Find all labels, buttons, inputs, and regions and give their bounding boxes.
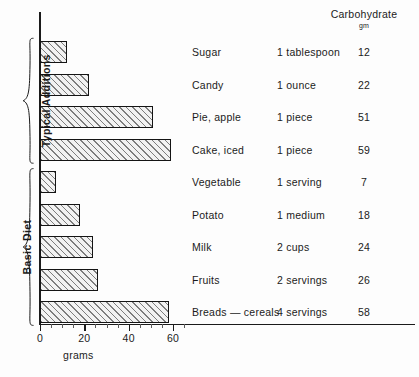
row-grams-value: 51 [358, 111, 370, 123]
row-grams-value: 7 [361, 176, 367, 188]
row-food-label: Pie, apple [192, 111, 241, 123]
x-tick-major [129, 324, 130, 331]
row-portion-label: 4 servings [277, 306, 327, 318]
x-tick-major [84, 324, 85, 331]
x-tick-minor [162, 324, 163, 328]
carbohydrate-bar-chart: 0204060 grams Sugar1 tablespoon12Candy1 … [0, 0, 419, 377]
bar [40, 171, 56, 193]
x-tick-label: 40 [123, 332, 135, 344]
x-tick-minor [184, 324, 185, 328]
row-food-label: Vegetable [192, 176, 241, 188]
row-grams-value: 24 [358, 241, 370, 253]
x-tick-major [40, 324, 41, 331]
x-tick-minor [107, 324, 108, 328]
x-tick-minor [51, 324, 52, 328]
row-grams-value: 18 [358, 209, 370, 221]
group-label-basic-diet: Basic Diet [0, 167, 22, 327]
x-axis-title: grams [63, 349, 94, 361]
row-food-label: Fruits [192, 274, 220, 286]
row-food-label: Cake, iced [192, 144, 244, 156]
x-tick-major [173, 324, 174, 331]
row-grams-value: 12 [358, 46, 370, 58]
x-tick-minor [95, 324, 96, 328]
group-label-basic-text: Basic Diet [0, 220, 107, 275]
x-tick-label: 0 [37, 332, 43, 344]
x-tick-minor [118, 324, 119, 328]
row-portion-label: 1 piece [277, 144, 313, 156]
row-portion-label: 1 piece [277, 111, 313, 123]
row-food-label: Potato [192, 209, 224, 221]
bar [40, 301, 169, 323]
row-grams-value: 59 [358, 144, 370, 156]
row-portion-label: 1 medium [277, 209, 325, 221]
row-portion-label: 1 serving [277, 176, 322, 188]
x-tick-minor [73, 324, 74, 328]
x-tick-minor [151, 324, 152, 328]
x-tick-minor [140, 324, 141, 328]
group-label-typical-additions: Typical Additions [0, 37, 22, 165]
row-portion-label: 1 ounce [277, 79, 316, 91]
row-portion-label: 2 servings [277, 274, 327, 286]
row-portion-label: 2 cups [277, 241, 309, 253]
row-grams-value: 26 [358, 274, 370, 286]
x-tick-minor [62, 324, 63, 328]
column-header-carbohydrate: Carbohydrate [331, 8, 398, 20]
plot-area: 0204060 grams Sugar1 tablespoon12Candy1 … [0, 0, 419, 377]
row-food-label: Candy [192, 79, 224, 91]
x-tick-label: 20 [78, 332, 90, 344]
group-label-typical-text: Typical Additions [0, 54, 110, 147]
column-header-units: gm [359, 22, 369, 29]
row-food-label: Milk [192, 241, 212, 253]
x-tick-label: 60 [167, 332, 179, 344]
row-grams-value: 22 [358, 79, 370, 91]
row-food-label: Breads — cereals [192, 306, 279, 318]
row-grams-value: 58 [358, 306, 370, 318]
row-portion-label: 1 tablespoon [277, 46, 340, 58]
row-food-label: Sugar [192, 46, 221, 58]
